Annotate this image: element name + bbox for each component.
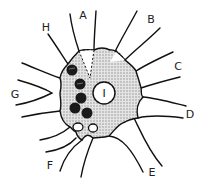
process-h [48, 34, 68, 64]
process-a-left [70, 14, 79, 51]
label-h: H [42, 21, 50, 34]
process-g-fork [16, 80, 52, 105]
label-c: C [174, 60, 182, 73]
label-e: E [149, 166, 156, 179]
process-d-top [143, 97, 186, 106]
process-g-bottom [22, 111, 60, 117]
nucleus-label: I [102, 87, 105, 100]
granule [82, 108, 93, 119]
process-c-top [136, 52, 173, 71]
granule [70, 103, 81, 114]
process-d-bottom [138, 116, 183, 118]
process-f-right [60, 140, 82, 171]
label-b: B [147, 13, 155, 26]
process-f-left [40, 127, 70, 140]
process-a-right [94, 11, 96, 50]
granule [76, 93, 87, 104]
process-b-right [125, 28, 160, 60]
label-g: G [11, 88, 20, 101]
process-e-left [109, 136, 143, 172]
granule [67, 65, 78, 76]
process-g-top [22, 63, 60, 78]
label-d: D [186, 108, 194, 121]
process-f-inner [81, 138, 93, 177]
process-e-right [134, 118, 162, 166]
granule [75, 79, 86, 90]
cell-diagram: I A B C D E F G H [0, 0, 206, 187]
label-f: F [47, 159, 53, 172]
label-a: A [79, 9, 87, 22]
process-c-bottom [141, 77, 180, 88]
